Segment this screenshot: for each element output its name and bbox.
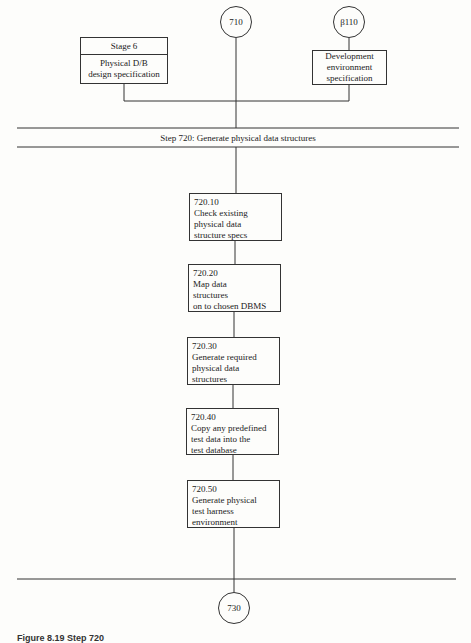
dev-line: environment (313, 62, 386, 73)
task-box-720-10: 720.10 Check existing physical data stru… (189, 193, 282, 241)
task-box-720-30: 720.30 Generate required physical data s… (187, 337, 280, 385)
task-line: physical data (192, 363, 275, 374)
task-line: Generate physical (192, 495, 275, 506)
task-line: test database (191, 445, 274, 456)
task-line: test harness (192, 506, 275, 517)
task-box-720-40: 720.40 Copy any predefined test data int… (186, 408, 279, 455)
task-line: environment (192, 517, 275, 528)
step-title: Step 720: Generate physical data structu… (17, 131, 459, 145)
stage-header: Stage 6 (81, 38, 167, 55)
stage-6-input-box: Stage 6 Physical D/B design specificatio… (80, 37, 168, 84)
connector-label: 730 (227, 603, 241, 613)
task-number: 720.30 (192, 341, 275, 352)
connector-circle-710: 710 (220, 6, 252, 38)
connector-label: 710 (229, 17, 243, 27)
connector-circle-b110: β110 (333, 6, 365, 38)
task-line: structure specs (194, 230, 277, 241)
task-line: Map data (193, 279, 276, 290)
task-number: 720.10 (194, 197, 277, 208)
task-line: on to chosen DBMS (193, 301, 276, 312)
task-box-720-50: 720.50 Generate physical test harness en… (187, 480, 280, 528)
task-number: 720.50 (192, 484, 275, 495)
task-number: 720.40 (191, 412, 274, 423)
connector-circle-730: 730 (218, 592, 250, 624)
task-line: Generate required (192, 352, 275, 363)
task-box-720-20: 720.20 Map data structures on to chosen … (188, 264, 281, 312)
stage-line: Physical D/B (81, 58, 167, 69)
connector-label: β110 (340, 17, 358, 27)
stage-line: design specification (81, 69, 167, 80)
task-line: test data into the (191, 434, 274, 445)
dev-line: Development (313, 51, 386, 62)
dev-line: specification (313, 73, 386, 84)
task-line: structures (192, 374, 275, 385)
task-line: structures (193, 290, 276, 301)
task-line: Copy any predefined (191, 423, 274, 434)
development-environment-box: Development environment specification (312, 50, 387, 85)
figure-caption: Figure 8.19 Step 720 (17, 633, 104, 643)
task-line: Check existing (194, 208, 277, 219)
task-number: 720.20 (193, 268, 276, 279)
task-line: physical data (194, 219, 277, 230)
